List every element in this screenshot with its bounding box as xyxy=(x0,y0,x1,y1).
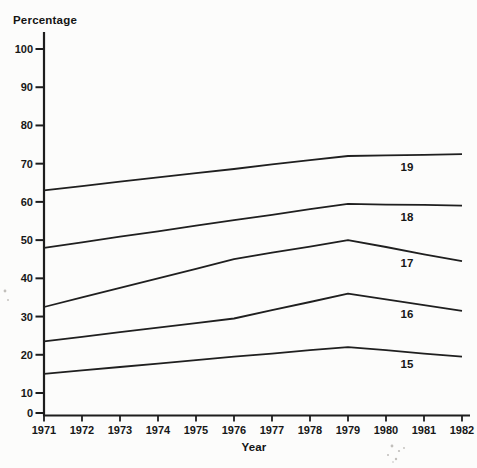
chart-canvas: 0102030405060708090100197119721973197419… xyxy=(0,0,477,468)
x-tick-label: 1973 xyxy=(108,424,132,436)
y-tick-label: 60 xyxy=(21,196,33,208)
x-tick-label: 1977 xyxy=(260,424,284,436)
x-axis-title: Year xyxy=(222,441,286,453)
line-series-19 xyxy=(44,154,462,190)
x-tick-label: 1975 xyxy=(184,424,208,436)
series-label-18: 18 xyxy=(401,211,414,223)
y-tick-label: 40 xyxy=(21,272,33,284)
x-tick-label: 1978 xyxy=(298,424,322,436)
x-tick-label: 1981 xyxy=(412,424,436,436)
scan-noise xyxy=(391,445,394,448)
y-tick-label: 100 xyxy=(15,43,33,55)
x-tick-label: 1982 xyxy=(450,424,474,436)
scan-noise xyxy=(4,290,7,293)
x-tick-label: 1972 xyxy=(70,424,94,436)
line-series-16 xyxy=(44,294,462,342)
scan-noise xyxy=(7,299,9,301)
scan-noise xyxy=(392,461,394,463)
y-tick-label: 50 xyxy=(21,234,33,246)
scanned-line-chart-figure: Percentage 01020304050607080901001971197… xyxy=(0,0,477,468)
scan-noise xyxy=(398,450,400,452)
scan-noise xyxy=(403,447,405,449)
series-label-19: 19 xyxy=(401,161,414,173)
line-series-17 xyxy=(44,240,462,307)
y-tick-label: 0 xyxy=(27,407,33,419)
y-axis-title: Percentage xyxy=(13,14,77,26)
x-tick-label: 1971 xyxy=(32,424,56,436)
x-tick-label: 1980 xyxy=(374,424,398,436)
y-tick-label: 30 xyxy=(21,311,33,323)
x-tick-label: 1976 xyxy=(222,424,246,436)
series-label-17: 17 xyxy=(401,257,414,269)
scan-noise xyxy=(387,454,389,456)
y-tick-label: 20 xyxy=(21,349,33,361)
line-series-18 xyxy=(44,204,462,248)
line-series-15 xyxy=(44,347,462,374)
x-tick-label: 1979 xyxy=(336,424,360,436)
y-tick-label: 10 xyxy=(21,387,33,399)
x-tick-label: 1974 xyxy=(146,424,171,436)
series-label-15: 15 xyxy=(401,358,414,370)
scan-noise xyxy=(395,458,397,460)
y-tick-label: 90 xyxy=(21,81,33,93)
y-tick-label: 80 xyxy=(21,119,33,131)
series-label-16: 16 xyxy=(401,308,414,320)
y-tick-label: 70 xyxy=(21,158,33,170)
